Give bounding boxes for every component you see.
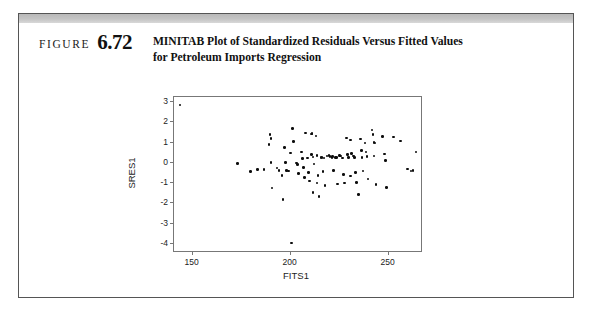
scatter-point bbox=[308, 180, 311, 183]
scatter-plot: 3210-1-2-3-4150200250 SRES1 FITS1 bbox=[19, 14, 575, 299]
scatter-point bbox=[296, 163, 299, 166]
scatter-point bbox=[415, 151, 418, 154]
scatter-point bbox=[361, 156, 364, 159]
scatter-point bbox=[291, 127, 294, 130]
scatter-point bbox=[372, 133, 375, 136]
scatter-point bbox=[341, 157, 344, 160]
y-axis-tick bbox=[170, 142, 174, 143]
scatter-point bbox=[284, 161, 287, 164]
scatter-point bbox=[384, 159, 387, 162]
scatter-point bbox=[347, 156, 350, 159]
scatter-point bbox=[342, 173, 345, 176]
y-axis-tick bbox=[170, 223, 174, 224]
scatter-point bbox=[287, 170, 290, 173]
scatter-point bbox=[281, 174, 284, 177]
scatter-point bbox=[371, 129, 374, 132]
scatter-point bbox=[357, 193, 360, 196]
scatter-point bbox=[349, 139, 352, 142]
scatter-point bbox=[307, 171, 310, 174]
y-axis-tick-label: 1 bbox=[163, 137, 168, 147]
y-axis-tick bbox=[170, 243, 174, 244]
scatter-point bbox=[269, 133, 272, 136]
y-axis-tick-label: -1 bbox=[160, 177, 168, 187]
y-axis-tick bbox=[170, 202, 174, 203]
scatter-point bbox=[249, 170, 252, 173]
scatter-point bbox=[335, 156, 338, 159]
scatter-point bbox=[392, 136, 395, 139]
x-axis-tick bbox=[388, 251, 389, 255]
scatter-point bbox=[268, 143, 271, 146]
scatter-point bbox=[365, 151, 368, 154]
scatter-point bbox=[304, 132, 307, 135]
scatter-point bbox=[374, 142, 377, 145]
scatter-point bbox=[345, 137, 348, 140]
scatter-point bbox=[315, 135, 318, 138]
y-axis-title: SRES1 bbox=[126, 157, 137, 188]
scatter-point bbox=[271, 187, 274, 190]
scatter-point bbox=[306, 157, 309, 160]
scatter-point bbox=[360, 149, 363, 152]
x-axis-title: FITS1 bbox=[283, 270, 309, 281]
scatter-point bbox=[359, 138, 362, 141]
scatter-point bbox=[353, 156, 356, 159]
scatter-point bbox=[362, 170, 365, 173]
y-axis-tick-label: 2 bbox=[163, 116, 168, 126]
scatter-point bbox=[412, 169, 415, 172]
scatter-point bbox=[332, 169, 335, 172]
scatter-point bbox=[289, 152, 292, 155]
scatter-point bbox=[316, 154, 319, 157]
scatter-point bbox=[179, 104, 182, 107]
scatter-point bbox=[316, 182, 319, 185]
scatter-point bbox=[290, 242, 293, 245]
scatter-point bbox=[283, 146, 286, 149]
y-axis-tick-label: -4 bbox=[160, 238, 168, 248]
scatter-point bbox=[270, 161, 273, 164]
scatter-point bbox=[301, 157, 304, 160]
y-axis-tick-label: 3 bbox=[163, 96, 168, 106]
y-axis-tick bbox=[170, 162, 174, 163]
y-axis-tick bbox=[170, 101, 174, 102]
plot-frame: 3210-1-2-3-4150200250 bbox=[173, 96, 422, 252]
x-axis-tick bbox=[192, 251, 193, 255]
scatter-point bbox=[236, 162, 239, 165]
x-axis-tick bbox=[290, 251, 291, 255]
scatter-point bbox=[324, 184, 327, 187]
scatter-point bbox=[375, 183, 378, 186]
scatter-point bbox=[385, 186, 388, 189]
figure-container: FIGURE 6.72 MINITAB Plot of Standardized… bbox=[18, 13, 574, 298]
scatter-point bbox=[381, 135, 384, 138]
y-axis-tick-label: -3 bbox=[160, 218, 168, 228]
scatter-point bbox=[312, 191, 315, 194]
scatter-point bbox=[300, 151, 303, 154]
scatter-point bbox=[322, 170, 325, 173]
x-axis-tick-label: 250 bbox=[381, 257, 395, 267]
scatter-point bbox=[270, 137, 273, 140]
scatter-point bbox=[318, 195, 321, 198]
scatter-point bbox=[364, 142, 367, 145]
y-axis-tick bbox=[170, 182, 174, 183]
x-axis-tick-label: 150 bbox=[185, 257, 199, 267]
scatter-point bbox=[349, 175, 352, 178]
scatter-point bbox=[313, 163, 316, 166]
scatter-point bbox=[373, 155, 376, 158]
scatter-point bbox=[292, 140, 295, 143]
scatter-point bbox=[278, 169, 281, 172]
scatter-point bbox=[354, 171, 357, 174]
scatter-point bbox=[303, 176, 306, 179]
scatter-point bbox=[311, 132, 314, 135]
scatter-point bbox=[302, 166, 305, 169]
y-axis-tick bbox=[170, 121, 174, 122]
scatter-point bbox=[282, 198, 285, 201]
scatter-point bbox=[343, 182, 346, 185]
scatter-point bbox=[355, 181, 358, 184]
y-axis-tick-label: 0 bbox=[163, 157, 168, 167]
scatter-point bbox=[297, 172, 300, 175]
scatter-point bbox=[366, 155, 369, 158]
scatter-point bbox=[317, 174, 320, 177]
scatter-point bbox=[256, 168, 259, 171]
scatter-point bbox=[323, 157, 326, 160]
scatter-point bbox=[367, 178, 370, 181]
scatter-point bbox=[383, 153, 386, 156]
scatter-point bbox=[312, 156, 315, 159]
scatter-point bbox=[336, 183, 339, 186]
